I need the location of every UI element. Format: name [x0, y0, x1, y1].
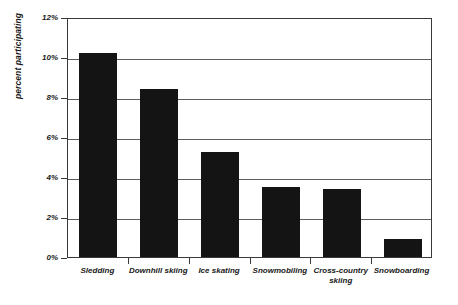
x-axis-category-label: Cross-country skiing — [310, 266, 371, 286]
x-axis-tick-mark — [250, 258, 251, 264]
bar — [201, 152, 239, 257]
gridline — [68, 139, 431, 140]
x-axis-category-label: Ice skating — [189, 266, 250, 276]
bar — [262, 187, 300, 257]
gridline — [68, 59, 431, 60]
y-axis-tick-label: 4% — [24, 173, 58, 182]
x-axis-category-label: Snowboarding — [371, 266, 432, 276]
y-axis-tick-label: 0% — [24, 253, 58, 262]
y-axis-tick-mark — [61, 258, 67, 259]
y-axis-tick-label: 8% — [24, 93, 58, 102]
bar — [323, 189, 361, 257]
x-axis-tick-mark — [128, 258, 129, 264]
bar — [79, 53, 117, 257]
chart-page: percent participating 0%2%4%6%8%10%12% S… — [0, 0, 458, 305]
x-axis-category-label: Snowmobiling — [250, 266, 311, 276]
gridline — [68, 219, 431, 220]
y-axis-tick-label: 10% — [24, 53, 58, 62]
gridline — [68, 99, 431, 100]
bar — [384, 239, 422, 257]
y-axis-tick-label: 6% — [24, 133, 58, 142]
x-axis-category-label: Sledding — [67, 266, 128, 276]
x-axis-tick-mark — [371, 258, 372, 264]
x-axis-tick-mark — [310, 258, 311, 264]
x-axis-category-label: Downhill skiing — [128, 266, 189, 276]
y-axis-tick-label: 2% — [24, 213, 58, 222]
y-axis-tick-label: 12% — [24, 13, 58, 22]
bar — [140, 89, 178, 257]
gridline — [68, 179, 431, 180]
plot-area — [67, 18, 432, 258]
x-axis-tick-mark — [189, 258, 190, 264]
